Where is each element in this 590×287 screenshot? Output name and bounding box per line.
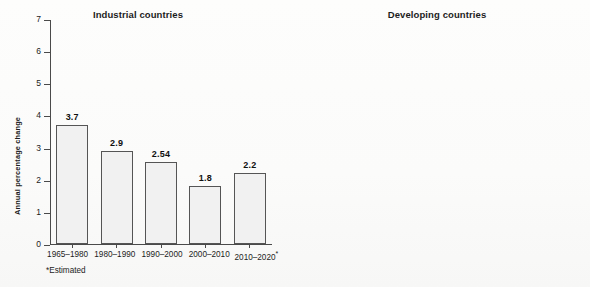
x-tick-mark [205, 244, 206, 248]
y-tick-label: 0 [36, 239, 41, 249]
chart-title-developing: Developing countries [317, 9, 557, 20]
y-tick-label: 6 [36, 46, 41, 56]
chart-panel-developing: Developing countries Annual percentage c… [295, 0, 590, 287]
chart-title-industrial: Industrial countries [18, 9, 258, 20]
plot-area-industrial: 01234567 3.72.92.541.82.2 [50, 20, 272, 245]
bar[interactable] [234, 173, 266, 244]
y-tick-label: 1 [36, 207, 41, 217]
bar-value-label: 2.2 [243, 160, 256, 170]
bar-slot: 2.9 [94, 20, 138, 244]
estimated-marker: * [276, 250, 279, 257]
y-axis-label-industrial: Annual percentage change [13, 117, 22, 215]
bar[interactable] [101, 151, 133, 244]
y-tick-label: 2 [36, 175, 41, 185]
x-axis-label: 1990–2000 [138, 250, 185, 262]
bar-slot: 3.7 [50, 20, 94, 244]
x-tick-mark [249, 244, 250, 248]
footnote-estimated: *Estimated [46, 266, 86, 275]
y-tick-label: 7 [36, 14, 41, 24]
bar-slot: 2.2 [228, 20, 272, 244]
bar-slot: 2.54 [139, 20, 183, 244]
bar-value-label: 2.9 [110, 138, 123, 148]
bar[interactable] [56, 125, 88, 244]
bar-value-label: 3.7 [66, 112, 79, 122]
x-axis-label: 2000–2010 [186, 250, 233, 262]
bar-value-label: 2.54 [152, 149, 170, 159]
x-axis-labels-industrial: 1965–19801980–19901990–20002000–20102010… [44, 250, 280, 262]
y-tick-label: 4 [36, 110, 41, 120]
y-tick-label: 5 [36, 78, 41, 88]
bar[interactable] [189, 186, 221, 244]
y-tick-label: 3 [36, 143, 41, 153]
y-tick-mark [44, 245, 50, 246]
x-tick-mark [72, 244, 73, 248]
x-axis-label: 1980–1990 [91, 250, 138, 262]
x-axis-label: 1965–1980 [44, 250, 91, 262]
bar-group-industrial: 3.72.92.541.82.2 [50, 20, 272, 244]
chart-panel-industrial: Industrial countries Annual percentage c… [0, 0, 295, 287]
x-tick-mark [161, 244, 162, 248]
bar[interactable] [145, 162, 177, 244]
bar-slot: 1.8 [183, 20, 227, 244]
figure-container: Industrial countries Annual percentage c… [0, 0, 590, 287]
x-tick-mark [116, 244, 117, 248]
bar-value-label: 1.8 [199, 173, 212, 183]
x-axis-label: 2010–2020* [233, 250, 280, 262]
